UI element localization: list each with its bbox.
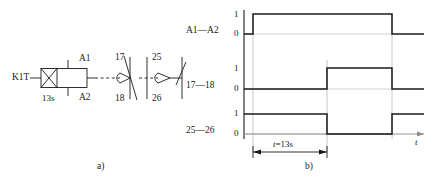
delay-annotation: t=13s xyxy=(273,140,293,149)
waveform-17-18 xyxy=(244,68,424,89)
tick-row2-low: 0 xyxy=(234,84,239,93)
figure-canvas: K1T 13s A1 A2 17 18 25 26 a) xyxy=(0,0,438,187)
timing-row-label-25-26: 25—26 xyxy=(186,126,215,136)
tick-row1-low: 0 xyxy=(234,29,239,38)
delay-annotation-value: =13s xyxy=(276,139,294,149)
time-axis-label: t xyxy=(415,138,418,147)
caption-b: b) xyxy=(305,162,313,172)
tick-row2-high: 1 xyxy=(234,64,239,73)
waveform-25-26 xyxy=(244,114,424,134)
delay-arrowhead-right xyxy=(319,150,327,155)
tick-row1-high: 1 xyxy=(234,10,239,19)
timing-row-label-a1-a2: A1—A2 xyxy=(186,26,219,36)
delay-arrowhead-left xyxy=(253,150,261,155)
timing-diagram xyxy=(0,0,438,187)
timing-row-label-17-18: 17—18 xyxy=(186,81,215,91)
time-axis-arrowhead xyxy=(417,131,424,136)
waveform-a1-a2 xyxy=(244,14,424,34)
tick-row3-low: 0 xyxy=(234,129,239,138)
tick-row3-high: 1 xyxy=(234,109,239,118)
